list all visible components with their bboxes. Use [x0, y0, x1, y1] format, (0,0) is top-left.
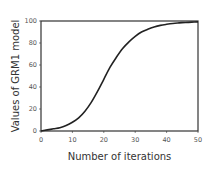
x-tick-label: 20	[100, 136, 108, 144]
y-axis-ticks: 020406080100	[25, 17, 41, 135]
y-tick-label: 20	[29, 105, 37, 113]
x-tick-label: 10	[68, 136, 76, 144]
x-axis-title: Number of iterations	[68, 151, 172, 162]
x-tick-label: 30	[131, 136, 139, 144]
y-tick-label: 40	[29, 83, 37, 91]
y-tick-label: 60	[29, 61, 37, 69]
plot-frame	[41, 21, 198, 131]
x-axis-ticks: 01020304050	[39, 131, 202, 144]
x-tick-label: 40	[162, 136, 170, 144]
y-tick-label: 80	[29, 39, 37, 47]
x-tick-label: 50	[194, 136, 202, 144]
series-line-grm1	[41, 22, 198, 131]
chart: 020406080100 01020304050 Number of itera…	[0, 0, 213, 176]
plot-area-border	[41, 21, 198, 131]
y-tick-label: 0	[33, 127, 37, 135]
x-tick-label: 0	[39, 136, 43, 144]
y-axis-title: Values of GRM1 model	[10, 20, 21, 133]
y-tick-label: 100	[25, 17, 37, 25]
